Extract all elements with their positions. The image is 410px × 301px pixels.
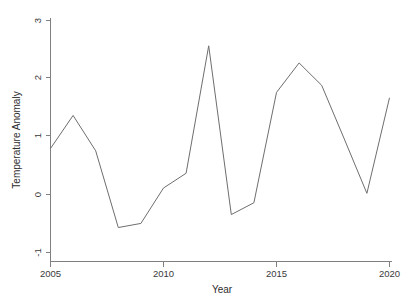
x-tick-label-2010: 2010 xyxy=(153,268,174,279)
y-tick-label-0: 0 xyxy=(32,192,43,197)
x-tick-label-2005: 2005 xyxy=(40,268,61,279)
y-axis-tick-labels: 3 2 1 0 -1 xyxy=(32,18,43,257)
line-chart-canvas: 3 2 1 0 -1 2005 2010 2015 2020 Year Temp… xyxy=(0,0,410,301)
y-axis-title: Temperature Anomaly xyxy=(11,91,22,188)
y-tick-label-3: 3 xyxy=(32,18,43,23)
x-tick-label-2015: 2015 xyxy=(266,268,287,279)
y-tick-label-2: 2 xyxy=(32,75,43,80)
y-tick-label-minus1: -1 xyxy=(32,248,43,256)
x-axis-ticks xyxy=(51,262,390,267)
y-axis-ticks xyxy=(46,21,51,253)
temperature-anomaly-line xyxy=(51,46,390,228)
x-tick-label-2020: 2020 xyxy=(379,268,400,279)
x-axis-tick-labels: 2005 2010 2015 2020 xyxy=(40,268,400,279)
x-axis-title: Year xyxy=(212,284,233,295)
chart-figure: 3 2 1 0 -1 2005 2010 2015 2020 Year Temp… xyxy=(0,0,410,301)
y-tick-label-1: 1 xyxy=(32,133,43,138)
